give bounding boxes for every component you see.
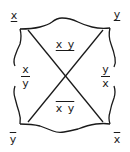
left-fraction-denominator: y <box>22 78 29 89</box>
brace-bottom <box>20 124 110 133</box>
left-fraction-numerator: x <box>22 64 29 75</box>
brace-top <box>20 18 110 29</box>
center-top-label: x y <box>52 39 78 50</box>
brace-left <box>14 29 21 124</box>
right-fraction: y x <box>101 64 110 89</box>
corner-top-left-label: x <box>9 10 19 21</box>
corner-bottom-right-label: x <box>112 134 122 145</box>
corner-top-right-label: y <box>112 9 122 20</box>
diagram-lines <box>0 0 130 152</box>
center-bottom-label: x y <box>52 103 78 114</box>
right-fraction-denominator: x <box>102 78 109 89</box>
right-fraction-numerator: y <box>102 64 109 75</box>
corner-bottom-left-label: y <box>8 134 18 145</box>
left-fraction: x y <box>21 64 30 89</box>
